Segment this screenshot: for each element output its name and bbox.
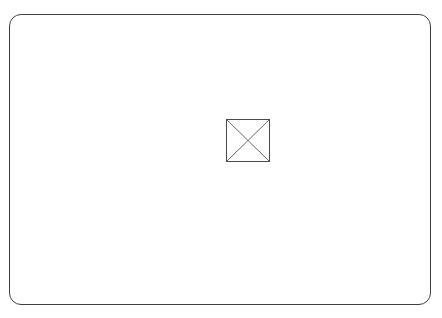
card-content-area (10, 15, 430, 304)
broken-image-icon (226, 119, 270, 162)
rounded-rectangle-frame (9, 14, 431, 305)
screenshot-viewport (0, 0, 442, 318)
broken-image-icon-graphic (226, 119, 270, 162)
